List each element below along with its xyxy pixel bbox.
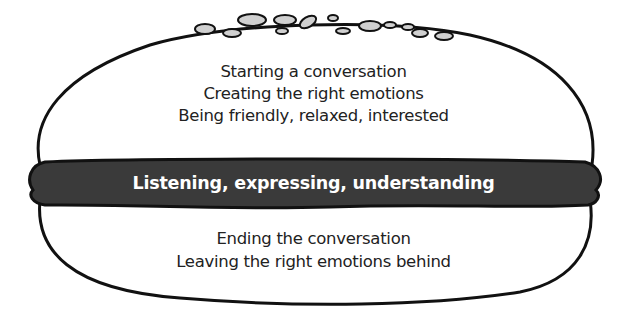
hamburger-illustration bbox=[0, 0, 627, 323]
top-line-2: Creating the right emotions bbox=[0, 83, 627, 105]
patty-label: Listening, expressing, understanding bbox=[0, 173, 627, 193]
top-bun-text: Starting a conversation Creating the rig… bbox=[0, 61, 627, 127]
bottom-line-2: Leaving the right emotions behind bbox=[0, 250, 627, 273]
hamburger-diagram: Starting a conversation Creating the rig… bbox=[0, 0, 627, 323]
bottom-line-1: Ending the conversation bbox=[0, 227, 627, 250]
top-line-1: Starting a conversation bbox=[0, 61, 627, 83]
bottom-bun-text: Ending the conversation Leaving the righ… bbox=[0, 227, 627, 273]
top-line-3: Being friendly, relaxed, interested bbox=[0, 105, 627, 127]
